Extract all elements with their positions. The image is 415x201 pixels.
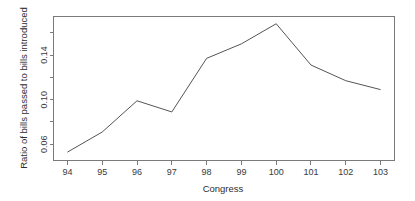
x-tick-label: 96: [132, 167, 142, 177]
tick-marks-group: [50, 33, 381, 165]
x-tick-label: 102: [338, 167, 353, 177]
x-tick-labels-group: 949596979899100101102103: [62, 167, 388, 177]
x-tick-label: 100: [269, 167, 284, 177]
x-tick-label: 98: [202, 167, 212, 177]
plot-box-border: [54, 17, 395, 161]
y-axis-title: Ratio of bills passed to bills introduce…: [18, 7, 29, 169]
y-tick-labels-group: 0.060.100.14: [39, 46, 49, 153]
x-tick-label: 97: [167, 167, 177, 177]
axes-group: [54, 17, 395, 161]
chart-container: 949596979899100101102103 0.060.100.14 Co…: [0, 0, 415, 201]
x-tick-label: 94: [62, 167, 72, 177]
data-line-path: [67, 24, 380, 152]
line-chart-plot: 949596979899100101102103 0.060.100.14 Co…: [0, 0, 415, 201]
x-tick-label: 103: [373, 167, 388, 177]
y-tick-label: 0.06: [39, 136, 49, 154]
data-series-line: [67, 24, 380, 152]
y-tick-label: 0.14: [39, 46, 49, 64]
x-tick-label: 101: [303, 167, 318, 177]
x-tick-label: 95: [97, 167, 107, 177]
x-axis-title: Congress: [203, 183, 244, 194]
x-tick-label: 99: [236, 167, 246, 177]
y-tick-label: 0.10: [39, 91, 49, 109]
